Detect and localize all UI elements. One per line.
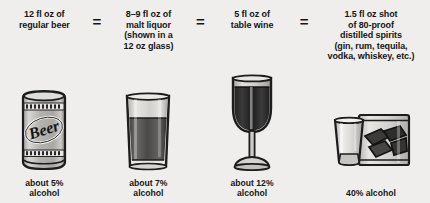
caption-line: vodka, whiskey, etc.): [328, 51, 415, 62]
standard-drink-equivalents-infographic: 12 fl oz of regular beer: [0, 0, 430, 203]
beer-can-illustration: Beer: [0, 72, 89, 172]
drink-abv-distilled-spirits: 40% alcohol: [312, 188, 430, 198]
caption-line: (shown in a: [123, 30, 173, 41]
caption-line: of 80-proof: [328, 20, 415, 31]
equals-symbol: =: [296, 14, 312, 29]
abv-line: alcohol: [208, 188, 296, 198]
equals-sign-2: =: [192, 0, 208, 203]
drink-abv-malt-liquor: about 7% alcohol: [105, 178, 193, 198]
drink-abv-regular-beer: about 5% alcohol: [0, 178, 89, 198]
equals-symbol: =: [89, 14, 105, 29]
caption-line: table wine: [231, 20, 274, 31]
drink-item-malt-liquor: 8–9 fl oz of malt liquor (shown in a 12 …: [105, 0, 193, 203]
shot-glass-and-tumbler-illustration: [312, 72, 430, 172]
caption-line: regular beer: [19, 20, 70, 31]
caption-line: 8–9 fl oz of: [123, 9, 173, 20]
caption-line: 12 fl oz of: [19, 9, 70, 20]
abv-line: alcohol: [0, 188, 89, 198]
equals-sign-1: =: [89, 0, 105, 203]
abv-line: 40% alcohol: [312, 188, 430, 198]
malt-liquor-glass-icon: [120, 92, 176, 172]
caption-line: 1.5 fl oz shot: [328, 9, 415, 20]
drink-caption-table-wine: 5 fl oz of table wine: [231, 0, 274, 30]
drink-item-table-wine: 5 fl oz of table wine: [208, 0, 296, 203]
drink-item-distilled-spirits: 1.5 fl oz shot of 80-proof distilled spi…: [312, 0, 430, 203]
equals-sign-3: =: [296, 0, 312, 203]
drink-caption-malt-liquor: 8–9 fl oz of malt liquor (shown in a 12 …: [123, 0, 173, 51]
wine-glass-icon: [223, 74, 281, 172]
drink-item-regular-beer: 12 fl oz of regular beer: [0, 0, 89, 203]
caption-line: distilled spirits: [328, 30, 415, 41]
wine-glass-illustration: [208, 72, 296, 172]
caption-line: (gin, rum, tequila,: [328, 41, 415, 52]
drink-caption-distilled-spirits: 1.5 fl oz shot of 80-proof distilled spi…: [328, 0, 415, 62]
beer-can-icon: Beer: [18, 88, 70, 172]
drink-caption-regular-beer: 12 fl oz of regular beer: [19, 0, 70, 30]
caption-line: 5 fl oz of: [231, 9, 274, 20]
caption-line: malt liquor: [123, 20, 173, 31]
abv-line: about 12%: [208, 178, 296, 188]
drink-abv-table-wine: about 12% alcohol: [208, 178, 296, 198]
abv-line: about 5%: [0, 178, 89, 188]
abv-line: alcohol: [105, 188, 193, 198]
spirits-glasses-icon: [329, 110, 413, 172]
equals-symbol: =: [192, 14, 208, 29]
pint-glass-illustration: [105, 72, 193, 172]
caption-line: 12 oz glass): [123, 41, 173, 52]
abv-line: about 7%: [105, 178, 193, 188]
